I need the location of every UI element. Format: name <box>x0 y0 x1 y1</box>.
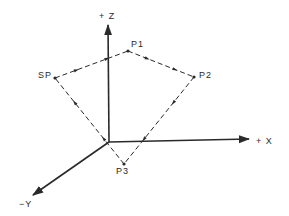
points-group <box>53 49 195 165</box>
coordinate-diagram: + Z+ X−YSPP1P2P3 <box>0 0 289 216</box>
path-segment-P3-SP <box>55 78 124 164</box>
labels-group: + Z+ X−YSPP1P2P3 <box>19 11 273 209</box>
axis-label-x: + X <box>256 136 273 146</box>
point-label-P1: P1 <box>131 39 144 49</box>
axis-y <box>33 142 109 195</box>
point-label-SP: SP <box>38 70 52 80</box>
point-label-P3: P3 <box>116 166 129 176</box>
path-segment-P2-P3 <box>124 77 194 164</box>
axis-label-z: + Z <box>99 11 115 21</box>
direction-arrow-icon <box>172 67 178 72</box>
axis-label-y: −Y <box>19 199 32 209</box>
direction-arrow-icon <box>144 56 150 61</box>
point-P2 <box>192 75 195 78</box>
path-segment-SP-P1 <box>55 51 128 78</box>
direction-arrow-icon <box>104 56 110 61</box>
axis-x <box>109 139 249 142</box>
point-label-P2: P2 <box>199 70 212 80</box>
direction-arrow-icon <box>74 68 80 73</box>
axis-z <box>108 25 109 142</box>
axes-group <box>33 25 249 195</box>
point-SP <box>53 76 56 79</box>
path-segment-P1-P2 <box>128 51 194 77</box>
point-P1 <box>126 49 129 52</box>
dashed-path-group <box>55 51 194 164</box>
